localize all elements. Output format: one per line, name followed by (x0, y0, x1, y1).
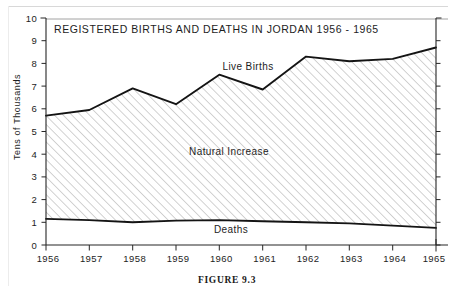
natural-increase-annotation: Natural Increase (189, 146, 269, 157)
deaths-annotation: Deaths (214, 224, 248, 235)
y-tick-label-1: 1 (31, 217, 37, 228)
figure-caption: FIGURE 9.3 (198, 275, 256, 285)
y-tick-label-3: 3 (31, 171, 37, 182)
x-tick-label-1958: 1958 (123, 253, 146, 264)
x-tick-label-1956: 1956 (37, 253, 60, 264)
y-tick-label-6: 6 (31, 103, 37, 114)
x-tick-label-1962: 1962 (297, 253, 320, 264)
x-tick-label-1963: 1963 (340, 253, 363, 264)
x-tick-label-1965: 1965 (423, 253, 446, 264)
x-tick-label-1957: 1957 (80, 253, 103, 264)
y-tick-label-8: 8 (31, 58, 37, 69)
y-axis-title: Tens of Thousands (12, 74, 22, 160)
births-deaths-area-chart: 10 9 8 7 6 5 4 3 2 1 0 1956 1957 1958 19… (0, 0, 454, 298)
y-tick-marks-right (436, 18, 442, 245)
natural-increase-band (46, 48, 436, 228)
chart-title: REGISTERED BIRTHS AND DEATHS IN JORDAN 1… (54, 23, 379, 35)
x-tick-label-1959: 1959 (167, 253, 190, 264)
x-tick-label-1960: 1960 (210, 253, 233, 264)
y-tick-label-4: 4 (31, 149, 37, 160)
x-tick-label-1961: 1961 (253, 253, 276, 264)
figure-container: 10 9 8 7 6 5 4 3 2 1 0 1956 1957 1958 19… (0, 0, 454, 298)
y-tick-label-9: 9 (31, 35, 37, 46)
x-tick-label-1964: 1964 (383, 253, 406, 264)
y-tick-label-5: 5 (31, 126, 37, 137)
live-births-annotation: Live Births (222, 61, 273, 72)
y-tick-marks (41, 18, 47, 245)
y-tick-label-2: 2 (31, 194, 37, 205)
y-tick-label-7: 7 (31, 81, 37, 92)
y-tick-label-10: 10 (26, 13, 37, 24)
y-tick-label-0: 0 (31, 240, 37, 251)
